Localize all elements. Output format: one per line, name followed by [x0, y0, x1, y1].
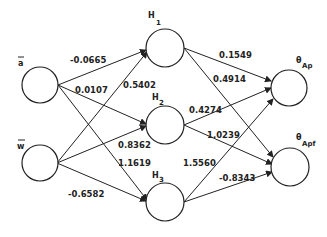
weight-h1-ap: 0.1549: [219, 50, 252, 60]
weight-w-h3: -0.6582: [68, 189, 104, 199]
weight-a-h1: -0.0665: [70, 55, 106, 65]
weight-a-h3: 1.1619: [118, 158, 151, 168]
weight-w-h2: 0.8362: [118, 140, 151, 150]
hidden-node-h1: [146, 29, 184, 67]
svg-text:a: a: [18, 59, 23, 68]
weight-h2-apf: 1.0239: [207, 130, 240, 140]
svg-text:H: H: [152, 93, 159, 102]
weight-h3-apf: -0.8343: [219, 173, 255, 183]
svg-text:3: 3: [159, 176, 164, 184]
svg-text:w: w: [17, 142, 25, 151]
svg-text:H: H: [152, 171, 159, 180]
input-node-w: [22, 145, 58, 181]
weight-a-h2: 0.0107: [75, 85, 108, 95]
svg-text:1: 1: [156, 19, 161, 27]
output-node-theta-ap: [271, 70, 307, 106]
weight-h3-ap: 1.5560: [183, 158, 216, 168]
output-label-theta-apf: θ Apf: [296, 133, 316, 148]
svg-text:H: H: [148, 11, 155, 20]
svg-text:Ap: Ap: [302, 62, 312, 70]
hidden-node-h2: [146, 106, 184, 144]
output-node-theta-apf: [271, 148, 309, 186]
hidden-node-h3: [146, 183, 184, 221]
weight-h1-apf: 0.4914: [213, 74, 246, 84]
edges-input-hidden: [57, 50, 147, 201]
svg-text:Apf: Apf: [302, 140, 316, 148]
weight-h2-ap: 0.4274: [189, 105, 222, 115]
neural-network-diagram: a w H 1 H 2 H 3 θ Ap θ Apf -0.0665 0.010…: [0, 0, 327, 237]
hidden-label-h2: H 2: [152, 93, 164, 107]
hidden-label-h1: H 1: [148, 11, 161, 27]
output-label-theta-ap: θ Ap: [296, 56, 312, 70]
hidden-label-h3: H 3: [152, 171, 164, 184]
weight-w-h1: 0.5402: [123, 80, 156, 90]
input-label-w: w: [17, 140, 25, 151]
input-node-a: [22, 67, 58, 103]
input-label-a: a: [18, 57, 24, 68]
svg-text:2: 2: [159, 99, 164, 107]
